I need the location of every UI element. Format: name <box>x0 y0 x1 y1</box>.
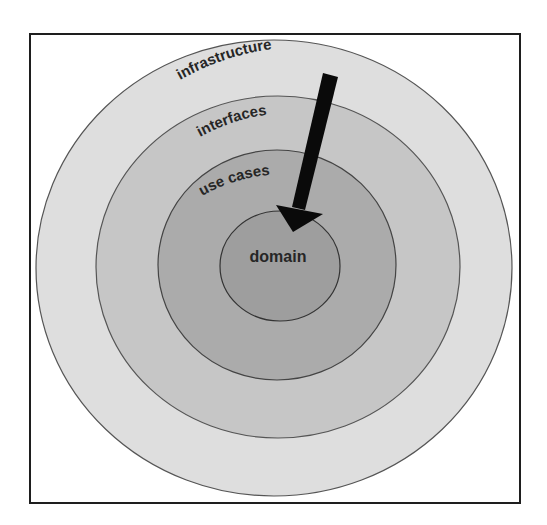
label-domain: domain <box>250 248 307 265</box>
onion-architecture-diagram: infrastructure interfaces use cases doma… <box>0 0 547 525</box>
layer-domain-core <box>220 211 340 321</box>
